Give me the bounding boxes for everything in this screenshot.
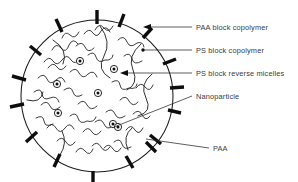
label-ps-block-copolymer: PS block copolymer (196, 46, 264, 55)
ps-chain (114, 140, 131, 149)
ps-chain (78, 101, 97, 109)
paa-bar (30, 46, 41, 55)
paa-bar (146, 142, 156, 152)
ps-chain (76, 148, 93, 153)
ps-chain-arc (138, 74, 152, 116)
ps-chain (118, 37, 144, 47)
ps-chain (44, 57, 81, 64)
ps-chain (57, 138, 75, 145)
ps-chain (88, 53, 113, 62)
nanoparticle (54, 109, 61, 116)
ps-chain-arc (53, 40, 65, 64)
ps-chain (84, 28, 110, 36)
ps-chain-arc (100, 26, 110, 78)
ps-chain (41, 102, 60, 110)
nanoparticle (94, 89, 101, 96)
leader-line-paa (146, 139, 209, 148)
ps-chain (64, 88, 82, 97)
ps-chain (136, 84, 153, 89)
ps-polymer-chains-group (34, 25, 153, 153)
label-nanoparticle: Nanoparticle (196, 92, 239, 101)
arrowhead-icon (120, 70, 128, 76)
nanoparticle (53, 80, 60, 87)
paa-bar (168, 110, 181, 113)
ps-chain-arc (27, 92, 43, 101)
nanoparticle (76, 57, 83, 64)
ps-chain (62, 32, 79, 38)
ps-chain (76, 43, 94, 51)
ps-chain (92, 143, 110, 150)
label-paa-block-copolymer: PAA block copolymer (196, 23, 269, 32)
ps-chain (120, 97, 138, 105)
ps-chain (36, 117, 53, 126)
ps-chain-arc (127, 44, 141, 90)
labels-group: PAA block copolymer PS block copolymer P… (196, 23, 285, 153)
label-paa: PAA (213, 144, 228, 153)
ps-chain (95, 25, 113, 30)
arrowhead-icon (143, 24, 151, 30)
ps-chain (48, 64, 66, 70)
ps-chain (70, 114, 96, 123)
nanoparticle (110, 65, 117, 72)
ps-chain (38, 75, 65, 83)
leader-dot-icon (141, 48, 144, 51)
ps-chain (106, 110, 125, 118)
ps-chain (104, 145, 121, 152)
paa-bar (163, 59, 176, 64)
ps-chain (124, 54, 142, 63)
label-ps-block-reverse-micelles: PS block reverse micelles (196, 69, 285, 78)
figure-container: PAA block copolymer PS block copolymer P… (0, 0, 298, 182)
micelle-schematic-diagram: PAA block copolymer PS block copolymer P… (0, 0, 298, 182)
leader-lines-group (114, 27, 209, 148)
paa-bar (54, 154, 60, 167)
ps-chain (47, 125, 74, 132)
ps-chain (70, 69, 97, 77)
ps-chain-arc (60, 131, 65, 155)
ps-chain (83, 129, 101, 135)
paa-bar (170, 87, 184, 88)
